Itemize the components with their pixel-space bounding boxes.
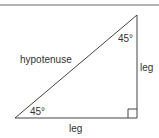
angle-top-label: 45°: [118, 33, 133, 44]
leg-bottom-label: leg: [69, 123, 82, 134]
right-angle-marker: [128, 109, 137, 118]
angle-bottom-label: 45°: [30, 106, 45, 117]
leg-right-label: leg: [140, 62, 153, 73]
hypotenuse-label: hypotenuse: [20, 54, 72, 65]
triangle-diagram: hypotenuse 45° leg 45° leg: [0, 0, 159, 138]
triangle: [15, 15, 137, 118]
